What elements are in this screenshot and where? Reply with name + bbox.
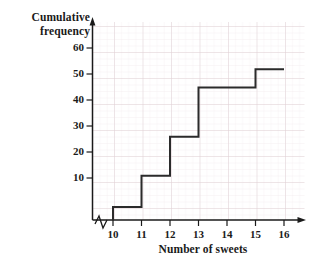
y-axis-title: Cumulative frequency	[8, 11, 90, 38]
x-tick-label-11: 11	[130, 228, 154, 240]
cumulative-frequency-chart: Cumulative frequency	[0, 0, 329, 268]
y-tick-label-40: 40	[58, 93, 84, 105]
y-tick-label-20: 20	[58, 145, 84, 157]
y-tick-label-50: 50	[58, 67, 84, 79]
y-tick-label-10: 10	[58, 171, 84, 183]
y-axis-ticks	[87, 48, 93, 178]
x-tick-label-10: 10	[101, 228, 125, 240]
x-axis-title: Number of sweets	[113, 243, 293, 255]
x-tick-label-14: 14	[215, 228, 239, 240]
y-tick-label-60: 60	[58, 41, 84, 53]
x-tick-label-13: 13	[187, 228, 211, 240]
y-tick-label-30: 30	[58, 119, 84, 131]
x-tick-label-12: 12	[158, 228, 182, 240]
x-axis-ticks	[113, 220, 284, 226]
y-axis-title-line2: frequency	[40, 25, 90, 37]
x-tick-label-16: 16	[272, 228, 296, 240]
y-axis-title-line1: Cumulative	[32, 11, 91, 23]
x-tick-label-15: 15	[244, 228, 268, 240]
